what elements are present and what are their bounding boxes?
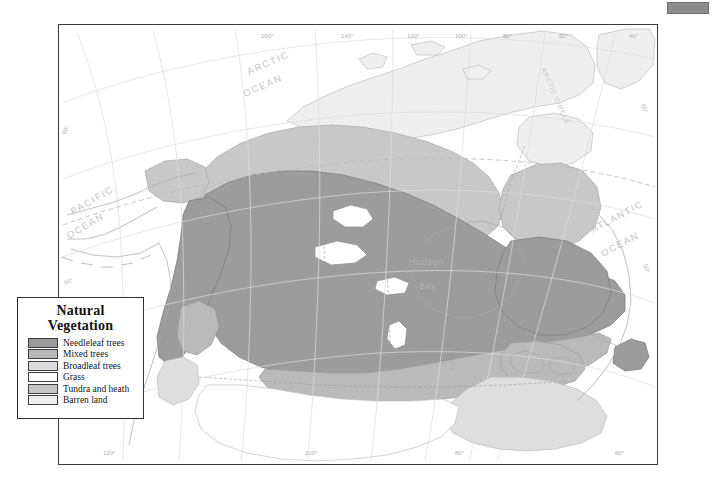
lon-bottom-60: 60° <box>615 450 625 456</box>
lon-top-40: 40° <box>629 33 639 39</box>
lon-top-160: 160° <box>261 33 274 39</box>
legend-item-barren-land[interactable]: Barren land <box>28 395 137 407</box>
legend-label-grass: Grass <box>63 372 85 382</box>
legend-label-mixed-trees: Mixed trees <box>63 349 108 359</box>
legend-item-tundra-and-heath[interactable]: Tundra and heath <box>28 383 137 395</box>
legend-title: Natural Vegetation <box>24 303 137 333</box>
legend-swatch-tundra-and-heath <box>28 384 58 394</box>
lon-top-120: 120° <box>407 33 420 39</box>
lon-top-80: 80° <box>503 33 513 39</box>
legend-swatch-needleleaf-trees <box>28 338 58 348</box>
map-legend: Natural Vegetation Needleleaf trees Mixe… <box>17 297 144 419</box>
legend-title-line1: Natural <box>24 303 137 318</box>
hudson-bay-line1: Hudson <box>409 257 444 267</box>
legend-item-broadleaf-trees[interactable]: Broadleaf trees <box>28 360 137 372</box>
corner-tab <box>667 2 709 14</box>
lon-top-60: 60° <box>559 33 569 39</box>
lon-top-100: 100° <box>455 33 468 39</box>
legend-item-needleleaf-trees[interactable]: Needleleaf trees <box>28 337 137 349</box>
legend-label-barren-land: Barren land <box>63 395 108 405</box>
legend-item-grass[interactable]: Grass <box>28 372 137 384</box>
map-page: ARCTIC OCEAN PACIFIC OCEAN ATLANTIC OCEA… <box>0 0 715 491</box>
lon-bottom-80: 80° <box>455 450 465 456</box>
legend-swatch-grass <box>28 372 58 382</box>
legend-title-line2: Vegetation <box>24 318 137 333</box>
legend-label-needleleaf-trees: Needleleaf trees <box>63 338 124 348</box>
legend-label-tundra-and-heath: Tundra and heath <box>63 384 129 394</box>
hudson-bay-line2: Bay <box>419 281 436 291</box>
canada-vegetation-map: ARCTIC OCEAN PACIFIC OCEAN ATLANTIC OCEA… <box>59 25 657 464</box>
legend-label-broadleaf-trees: Broadleaf trees <box>63 361 121 371</box>
lon-bottom-100: 100° <box>305 450 318 456</box>
legend-items: Needleleaf trees Mixed trees Broadleaf t… <box>28 337 137 406</box>
legend-swatch-broadleaf-trees <box>28 361 58 371</box>
map-canvas[interactable]: ARCTIC OCEAN PACIFIC OCEAN ATLANTIC OCEA… <box>58 24 658 465</box>
lon-bottom-120: 120° <box>103 450 116 456</box>
lon-top-140: 140° <box>341 33 354 39</box>
legend-swatch-mixed-trees <box>28 349 58 359</box>
legend-item-mixed-trees[interactable]: Mixed trees <box>28 349 137 361</box>
legend-swatch-barren-land <box>28 395 58 405</box>
